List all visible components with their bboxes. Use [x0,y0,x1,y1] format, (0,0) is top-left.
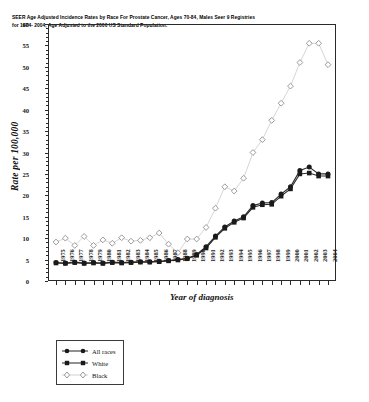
data-point [288,184,293,189]
y-tick-label: 60 [13,21,29,28]
data-point [138,237,144,243]
chart-legend: All races White Black [56,340,124,385]
data-point [307,165,312,170]
x-tick [103,281,104,285]
data-point [54,260,59,265]
data-point [316,40,322,46]
data-point [213,205,219,211]
x-tick [225,281,226,285]
x-tick-label: 1977 [77,249,84,262]
data-point [250,203,255,208]
x-tick [112,281,113,285]
prostate-cancer-incidence-chart: Rate per 100,000 SEER Age Adjusted Incid… [0,0,369,402]
data-point [279,192,284,197]
data-point [307,171,312,176]
data-point [109,240,115,246]
x-tick-label: 2001 [302,249,309,262]
x-tick-label: 1986 [162,249,169,262]
data-point [288,83,294,89]
x-tick-label: 1991 [209,249,216,262]
legend-marker-filled-square [61,358,89,368]
x-tick [65,281,66,285]
data-point [325,62,331,68]
y-tick-label: 15 [13,213,29,220]
y-tick-label: 45 [13,85,29,92]
series-black [53,40,331,255]
x-tick-label: 2004 [331,249,338,262]
y-tick-label: 35 [13,128,29,135]
x-tick [253,281,254,285]
legend-label-black: Black [92,372,107,379]
x-tick-label: 1992 [218,249,225,262]
legend-item-white: White [61,357,119,369]
data-point [222,225,227,230]
y-tick-major [45,281,49,282]
x-tick-label: 1975 [59,249,66,262]
y-tick-label: 20 [13,192,29,199]
data-point [278,100,284,106]
x-tick-label: 1998 [274,249,281,262]
data-point [297,168,302,173]
x-tick-label: 1982 [124,249,131,262]
data-point [119,235,125,241]
legend-marker-open-diamond [61,370,89,380]
legend-item-black: Black [61,369,119,381]
x-tick [56,281,57,285]
legend-marker-filled-circle [61,346,89,356]
x-tick-label: 1990 [199,249,206,262]
series-layer [48,24,336,281]
x-tick [281,281,282,285]
x-tick-label: 1995 [246,249,253,262]
x-tick-label: 1999 [284,249,291,262]
x-tick-label: 2003 [321,249,328,262]
x-tick [272,281,273,285]
x-tick [84,281,85,285]
x-tick [319,281,320,285]
x-tick-label: 1979 [96,249,103,262]
data-point [184,236,190,242]
x-tick-label: 1983 [134,249,141,262]
x-tick-label: 1987 [171,249,178,262]
data-point [297,60,303,66]
data-point [260,201,265,206]
x-tick [309,281,310,285]
x-tick [178,281,179,285]
plot-area [48,24,336,281]
x-tick-label: 1978 [87,249,94,262]
x-tick [169,281,170,285]
x-tick-label: 1997 [265,249,272,262]
y-tick-label: 55 [13,42,29,49]
data-point [100,237,106,243]
x-tick [131,281,132,285]
legend-item-all-races: All races [61,345,119,357]
x-tick-label: 1984 [143,249,150,262]
legend-label-white: White [92,360,108,367]
x-axis-title: Year of diagnosis [170,292,234,302]
y-tick-label: 30 [13,149,29,156]
x-tick [328,281,329,285]
x-tick-label: 1996 [256,249,263,262]
x-tick [122,281,123,285]
data-point [128,238,134,244]
x-tick-label: 2002 [312,249,319,262]
x-tick [262,281,263,285]
x-tick-label: 1989 [190,249,197,262]
x-tick [159,281,160,285]
y-tick-label: 25 [13,170,29,177]
data-point [316,171,321,176]
x-tick-label: 1994 [237,249,244,262]
data-point [306,40,312,46]
x-tick-label: 2000 [293,249,300,262]
y-tick-label: 40 [13,106,29,113]
data-point [241,214,246,219]
data-point [222,184,228,190]
x-tick-label: 1976 [68,249,75,262]
data-point [232,219,237,224]
data-point [53,239,59,245]
x-tick [94,281,95,285]
x-tick-label: 1981 [115,249,122,262]
x-tick [140,281,141,285]
data-point [269,117,275,123]
data-point [269,200,274,205]
y-tick-label: 10 [13,235,29,242]
